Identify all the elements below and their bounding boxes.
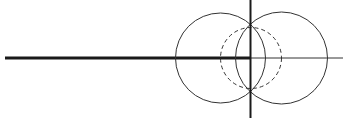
geometric-diagram [0, 0, 347, 123]
